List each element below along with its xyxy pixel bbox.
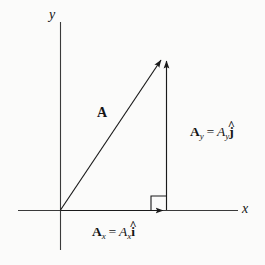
vector-a-arrow xyxy=(61,60,162,210)
vector-a-label: A xyxy=(97,106,107,120)
j-hat-caret-icon: ^ xyxy=(228,119,235,131)
x-axis-label: x xyxy=(242,202,248,216)
ay-equals-sign: = xyxy=(204,124,217,139)
ax-vector-symbol: A xyxy=(92,224,102,239)
vector-components-figure: y x A Ay=Ay^j Ax=Ax^i xyxy=(0,0,265,265)
right-angle-marker xyxy=(151,196,167,211)
i-hat-caret-icon: ^ xyxy=(129,219,136,231)
vector-ax-equation: Ax=Ax^i xyxy=(92,225,135,241)
ay-scalar-symbol: A xyxy=(217,124,225,139)
vector-ay-equation: Ay=Ay^j xyxy=(190,125,234,141)
i-hat-unit-vector: ^i xyxy=(131,225,135,239)
ax-equals-sign: = xyxy=(106,224,119,239)
ax-scalar-symbol: A xyxy=(119,224,127,239)
y-axis-label: y xyxy=(49,8,55,22)
j-hat-unit-vector: ^j xyxy=(229,125,234,139)
ay-vector-symbol: A xyxy=(190,124,200,139)
